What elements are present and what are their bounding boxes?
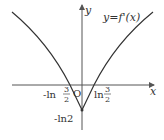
pos-intercept-prefix: ln: [94, 89, 104, 100]
pos-intercept-num: 3: [105, 85, 110, 94]
vertex-point: [81, 109, 84, 112]
function-label: y=f'(x): [102, 11, 140, 24]
neg-intercept-prefix: -ln: [43, 89, 57, 100]
graph-canvas: y x y=f'(x) O -ln 3 2 ln 3 2 -ln2: [0, 0, 164, 140]
y-axis-label: y: [84, 4, 92, 17]
y-min-label: -ln2: [54, 113, 73, 124]
origin-label: O: [73, 88, 81, 99]
neg-intercept-den: 2: [64, 95, 69, 104]
curve-right: [82, 12, 153, 110]
x-axis-label: x: [150, 85, 157, 98]
neg-intercept-num: 3: [64, 85, 69, 94]
function-graph: y x y=f'(x) O -ln 3 2 ln 3 2 -ln2: [0, 0, 164, 140]
pos-intercept-den: 2: [105, 95, 110, 104]
